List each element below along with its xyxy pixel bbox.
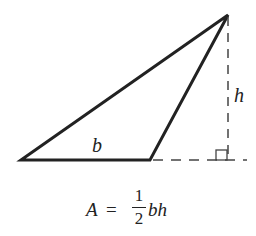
fraction-denominator: 2: [132, 209, 146, 229]
base-label: b: [92, 134, 102, 156]
height-label: h: [234, 84, 244, 106]
formula-fraction: 1 2: [132, 186, 146, 229]
formula-equals: =: [106, 199, 117, 221]
fraction-bar: [132, 207, 146, 208]
fraction-numerator: 1: [132, 186, 146, 206]
area-formula: A = 1 2 bh: [80, 186, 180, 234]
formula-lhs: A: [86, 199, 98, 221]
right-angle-marker: [216, 150, 227, 160]
triangle-shape: [21, 15, 228, 160]
formula-variables: bh: [148, 199, 167, 221]
